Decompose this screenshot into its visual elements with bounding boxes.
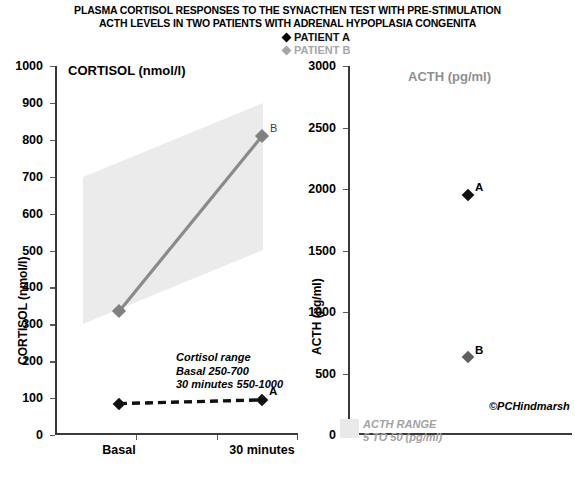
cortisol-ytick-500: 500 (50, 251, 55, 252)
cortisol-ytick-1000: 1000 (50, 66, 55, 67)
cortisol-panel: CORTISOL (nmol/l) 0 100 200 300 400 500 … (0, 55, 300, 489)
patient-b-cortisol-marker-basal (112, 304, 126, 318)
acth-y-axis-title: ACTH (pg/ml) (310, 278, 324, 355)
acth-plot-area: 0 500 1000 1500 2000 2500 3000 A B (348, 66, 572, 435)
cortisol-ytick-0: 0 (50, 435, 55, 436)
acth-ytick-label-1500: 1500 (308, 244, 336, 258)
patient-a-cortisol-marker-30min (256, 394, 269, 407)
acth-ytick-1500: 1500 (343, 251, 348, 252)
patient-b-cortisol-point-label: B (270, 122, 277, 134)
cortisol-x-axis (55, 433, 298, 435)
cortisol-ytick-400: 400 (50, 287, 55, 288)
cortisol-ytick-100: 100 (50, 398, 55, 399)
acth-range-swatch (340, 419, 359, 438)
cortisol-ytick-700: 700 (50, 177, 55, 178)
patient-b-acth-point-label: B (475, 344, 483, 356)
cortisol-ytick-label-700: 700 (22, 170, 43, 184)
legend: PATIENT A PATIENT B (282, 31, 350, 57)
patient-b-cortisol-marker-30min (255, 129, 269, 143)
acth-ytick-1000: 1000 (343, 312, 348, 313)
cortisol-xtick-mid2 (217, 435, 218, 440)
patient-a-cortisol-marker-basal (113, 397, 126, 410)
cortisol-ytick-600: 600 (50, 214, 55, 215)
cortisol-ytick-label-100: 100 (22, 391, 43, 405)
cortisol-xtick-label-30min: 30 minutes (229, 443, 294, 461)
cortisol-xtick-label-basal: Basal (102, 443, 135, 461)
legend-item-patient-a: PATIENT A (282, 31, 350, 44)
cortisol-ytick-label-200: 200 (22, 354, 43, 368)
acth-ytick-label-500: 500 (315, 367, 336, 381)
patient-b-acth-marker (462, 351, 475, 364)
cortisol-xtick-end (297, 435, 298, 440)
acth-ytick-label-3000: 3000 (308, 59, 336, 73)
chart-title-line1: PLASMA CORTISOL RESPONSES TO THE SYNACTH… (74, 4, 501, 16)
acth-ytick-2500: 2500 (343, 128, 348, 129)
legend-label-patient-a: PATIENT A (294, 31, 350, 44)
acth-plot-title: ACTH (pg/ml) (408, 69, 491, 84)
cortisol-ytick-label-500: 500 (22, 244, 43, 258)
patient-a-acth-marker (462, 189, 475, 202)
cortisol-range-annotation: Cortisol range Basal 250-700 30 minutes … (176, 351, 283, 392)
cortisol-ytick-label-300: 300 (22, 317, 43, 331)
acth-ytick-500: 500 (343, 374, 348, 375)
cortisol-ytick-200: 200 (50, 361, 55, 362)
cortisol-xtick-mid (136, 435, 137, 440)
cortisol-ytick-label-1000: 1000 (15, 59, 43, 73)
acth-ytick-label-2000: 2000 (308, 182, 336, 196)
patient-a-acth-point-label: A (475, 181, 483, 193)
cortisol-y-axis (55, 66, 57, 435)
cortisol-ytick-800: 800 (50, 140, 55, 141)
acth-ytick-label-2500: 2500 (308, 121, 336, 135)
cortisol-y-axis-title: CORTISOL (nmol/l) (16, 257, 30, 365)
cortisol-plot-title: CORTISOL (nmol/l) (68, 63, 185, 78)
acth-ytick-label-0: 0 (329, 428, 336, 442)
diamond-marker-icon (282, 46, 292, 56)
acth-ytick-3000: 3000 (343, 66, 348, 67)
chart-title: PLASMA CORTISOL RESPONSES TO THE SYNACTH… (0, 4, 575, 30)
cortisol-ytick-900: 900 (50, 103, 55, 104)
acth-y-axis (348, 66, 350, 435)
cortisol-ytick-300: 300 (50, 324, 55, 325)
cortisol-ytick-label-800: 800 (22, 133, 43, 147)
cortisol-ytick-label-0: 0 (36, 428, 43, 442)
diamond-marker-icon (282, 33, 292, 43)
cortisol-ytick-label-600: 600 (22, 207, 43, 221)
chart-title-line2: ACTH LEVELS IN TWO PATIENTS WITH ADRENAL… (0, 17, 575, 30)
figure: PLASMA CORTISOL RESPONSES TO THE SYNACTH… (0, 0, 575, 489)
acth-range-annotation: ACTH RANGE 5 TO 50 (pg/ml) (363, 418, 442, 444)
copyright-annotation: ©PCHindmarsh (489, 400, 570, 414)
cortisol-ytick-label-900: 900 (22, 96, 43, 110)
acth-ytick-2000: 2000 (343, 189, 348, 190)
cortisol-ytick-label-400: 400 (22, 280, 43, 294)
